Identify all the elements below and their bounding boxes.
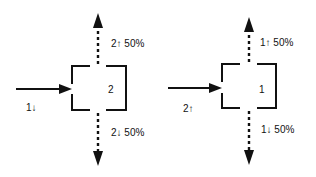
panel-right: 2↑ 1 1↑ 50% 1↓ 50% [168, 17, 294, 165]
box-top-left-bracket [72, 66, 90, 84]
panel-left: 1↓ 2 2↑ 50% 2↓ 50% [16, 13, 144, 166]
diagram-canvas: 1↓ 2 2↑ 50% 2↓ 50% 2↑ 1 1↑ 50% 1↓ 50% [0, 0, 316, 177]
up-label: 2↑ 50% [111, 38, 144, 49]
input-label: 1↓ [26, 102, 37, 113]
down-label: 2↓ 50% [111, 127, 144, 138]
input-arrow-head [209, 83, 222, 93]
up-arrow-head [244, 17, 254, 32]
input-label: 2↑ [183, 103, 194, 114]
up-arrow-head [93, 13, 103, 28]
box-label: 1 [259, 84, 265, 95]
box-top-left-bracket [222, 64, 240, 82]
down-arrow-head [244, 150, 254, 165]
down-arrow-head [93, 151, 103, 166]
box-bottom-left-bracket [222, 93, 240, 108]
up-label: 1↑ 50% [260, 37, 293, 48]
box-label: 2 [108, 84, 114, 95]
input-arrow-head [59, 84, 72, 94]
down-label: 1↓ 50% [261, 124, 294, 135]
box-bottom-left-bracket [72, 94, 90, 110]
